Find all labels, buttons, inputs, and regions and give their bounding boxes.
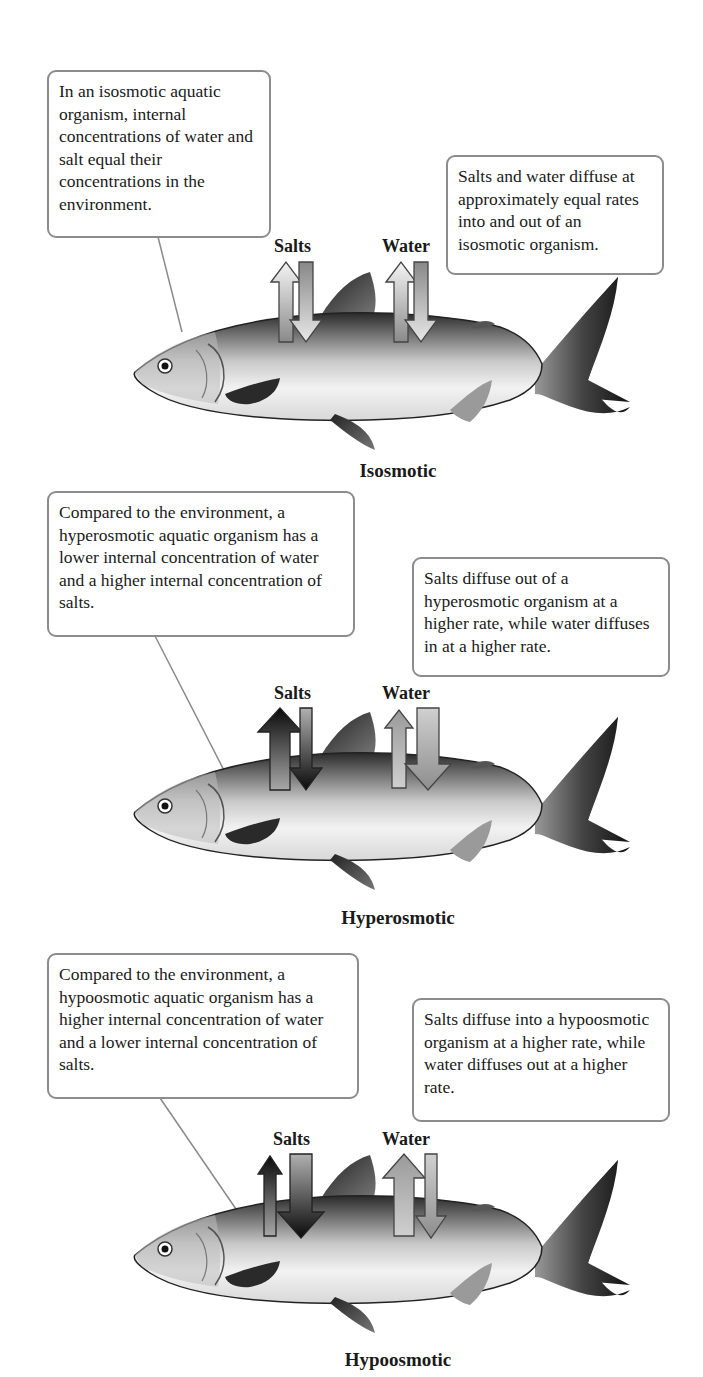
salts-arrows-hypoosmotic xyxy=(256,1152,336,1242)
salts-label-hyperosmotic: Salts xyxy=(274,683,311,704)
hyperosmotic-diffusion-box: Salts diffuse out of a hyperosmotic orga… xyxy=(412,557,670,677)
isosmotic-definition-box: In an isosmotic aquatic organism, intern… xyxy=(47,70,271,238)
salts-arrows-isosmotic xyxy=(266,260,336,350)
isosmotic-diffusion-box: Salts and water diffuse at approximately… xyxy=(446,155,664,275)
water-arrows-hypoosmotic xyxy=(381,1152,461,1242)
isosmotic-definition-text: In an isosmotic aquatic organism, intern… xyxy=(59,81,253,214)
hyperosmotic-definition-box: Compared to the environment, a hyperosmo… xyxy=(47,491,355,637)
arrow-up-icon xyxy=(258,708,302,790)
hypoosmotic-diffusion-text: Salts diffuse into a hypoosmotic organis… xyxy=(424,1009,649,1097)
water-label-isosmotic: Water xyxy=(382,236,430,257)
hypoosmotic-definition-box: Compared to the environment, a hypoosmot… xyxy=(47,953,359,1099)
hypoosmotic-diffusion-box: Salts diffuse into a hypoosmotic organis… xyxy=(412,998,670,1122)
arrow-up-icon xyxy=(383,1154,425,1236)
isosmotic-diffusion-text: Salts and water diffuse at approximately… xyxy=(458,166,639,254)
arrow-down-icon xyxy=(278,1154,324,1238)
water-arrows-isosmotic xyxy=(381,260,451,350)
salts-arrows-hyperosmotic xyxy=(256,706,336,796)
arrow-down-icon xyxy=(290,708,322,790)
salts-label-hypoosmotic: Salts xyxy=(273,1129,310,1150)
arrow-up-icon xyxy=(385,710,413,788)
arrow-up-icon xyxy=(258,1156,282,1236)
salts-label-isosmotic: Salts xyxy=(274,236,311,257)
hyperosmotic-diffusion-text: Salts diffuse out of a hyperosmotic orga… xyxy=(424,568,650,656)
panel-title-hyperosmotic: Hyperosmotic xyxy=(298,907,498,929)
water-label-hyperosmotic: Water xyxy=(382,683,430,704)
panel-title-isosmotic: Isosmotic xyxy=(298,460,498,482)
panel-title-hypoosmotic: Hypoosmotic xyxy=(298,1349,498,1371)
arrow-down-icon xyxy=(405,708,451,790)
arrow-down-icon xyxy=(416,1154,446,1238)
hypoosmotic-definition-text: Compared to the environment, a hypoosmot… xyxy=(59,964,323,1074)
water-arrows-hyperosmotic xyxy=(381,706,461,796)
hyperosmotic-definition-text: Compared to the environment, a hyperosmo… xyxy=(59,502,322,612)
water-label-hypoosmotic: Water xyxy=(382,1129,430,1150)
